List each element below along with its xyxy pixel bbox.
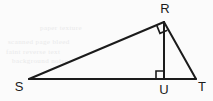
- triangle-diagram: R S T U: [0, 0, 213, 101]
- segment-RT: [164, 22, 196, 79]
- vertex-label-S: S: [15, 79, 24, 94]
- right-angle-at-U: [156, 71, 164, 79]
- geometry-figure: scanned page bleed faint reverse text ba…: [0, 0, 213, 101]
- vertex-label-T: T: [198, 79, 206, 94]
- segment-SR: [29, 22, 164, 79]
- vertex-label-R: R: [160, 1, 169, 16]
- vertex-label-U: U: [159, 82, 168, 97]
